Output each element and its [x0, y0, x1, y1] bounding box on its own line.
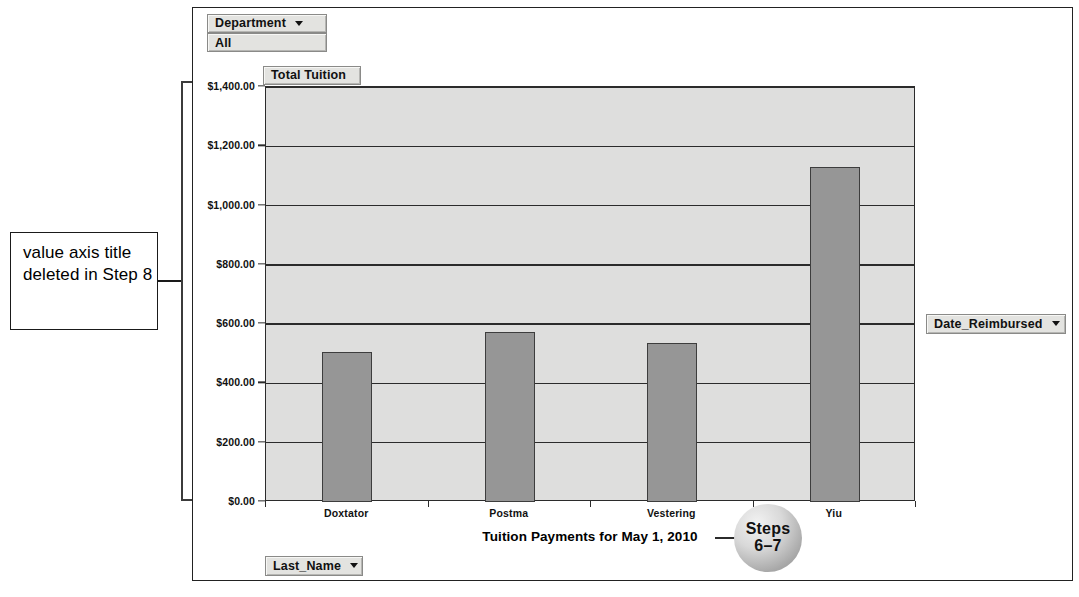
category-axis-tick-mark [915, 501, 916, 507]
value-axis-tick-mark [258, 500, 265, 501]
pivot-chart-frame: Department All Total Tuition Last_Name D… [192, 7, 1073, 581]
value-axis-tick-mark [258, 263, 265, 264]
pivot-field-date-reimbursed[interactable]: Date_Reimbursed [926, 314, 1066, 334]
steps-callout-badge: Steps 6–7 [734, 504, 802, 572]
pivot-field-date-reimbursed-label: Date_Reimbursed [934, 317, 1043, 331]
bar-postma[interactable] [485, 332, 535, 502]
chart-title: Tuition Payments for May 1, 2010 [265, 529, 915, 544]
pivot-field-department-value-label: All [215, 36, 231, 50]
value-axis-tick-mark [258, 441, 265, 442]
plot-area [265, 86, 915, 501]
category-axis-tick-mark [428, 501, 429, 507]
chevron-down-icon [295, 21, 303, 26]
category-axis-tick-mark [265, 501, 266, 507]
value-axis-tick-mark [258, 85, 265, 86]
gridline [266, 146, 914, 147]
pivot-field-department-value[interactable]: All [207, 33, 327, 52]
chevron-down-icon [1052, 321, 1060, 326]
annotation-text: value axis title deleted in Step 8 [23, 243, 152, 284]
steps-callout-line1: Steps [746, 521, 791, 538]
pivot-field-total-tuition-label: Total Tuition [271, 68, 346, 82]
steps-callout-line2: 6–7 [754, 538, 781, 555]
bar-vestering[interactable] [647, 343, 697, 502]
annotation-callout-box: value axis title deleted in Step 8 [10, 232, 158, 330]
pivot-field-last-name-label: Last_Name [273, 559, 341, 573]
pivot-field-department[interactable]: Department [207, 14, 327, 33]
category-axis-label: Vestering [647, 507, 696, 519]
value-axis-tick-mark [258, 382, 265, 383]
value-axis-tick-label: $0.00 [228, 495, 255, 507]
bar-doxtator[interactable] [322, 352, 372, 502]
value-axis-tick-label: $600.00 [216, 317, 255, 329]
value-axis-tick-label: $800.00 [216, 258, 255, 270]
category-axis-tick-mark [590, 501, 591, 507]
bar-yiu[interactable] [810, 167, 860, 502]
chevron-down-icon [350, 563, 358, 568]
value-axis-tick-mark [258, 145, 265, 146]
value-axis-tick-label: $1,400.00 [207, 80, 255, 92]
value-axis-tick-mark [258, 322, 265, 323]
category-axis-label: Yiu [826, 507, 842, 519]
gridline [266, 86, 914, 87]
pivot-field-last-name[interactable]: Last_Name [265, 556, 363, 576]
annotation-bracket [181, 81, 183, 500]
annotation-leader-line [158, 280, 182, 282]
value-axis-tick-label: $200.00 [216, 436, 255, 448]
pivot-field-department-label: Department [215, 16, 286, 30]
value-axis-tick-label: $1,000.00 [207, 199, 255, 211]
value-axis-tick-mark [258, 204, 265, 205]
pivot-field-total-tuition[interactable]: Total Tuition [263, 66, 361, 85]
value-axis-tick-label: $1,200.00 [207, 139, 255, 151]
category-axis-label: Postma [489, 507, 528, 519]
value-axis-tick-label: $400.00 [216, 376, 255, 388]
value-axis: $0.00$200.00$400.00$600.00$800.00$1,000.… [193, 86, 265, 501]
category-axis-label: Doxtator [324, 507, 368, 519]
